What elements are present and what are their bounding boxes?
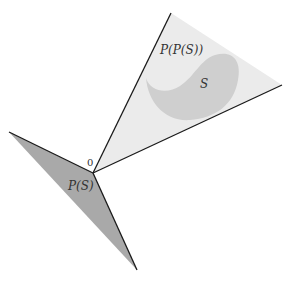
polar-label: P(S) <box>67 179 94 193</box>
set-label: S <box>200 77 208 91</box>
origin-label: 0 <box>87 157 93 168</box>
cone-diagram: P(P(S)) S 0 P(S) <box>0 0 291 283</box>
bipolar-label: P(P(S)) <box>159 43 203 57</box>
